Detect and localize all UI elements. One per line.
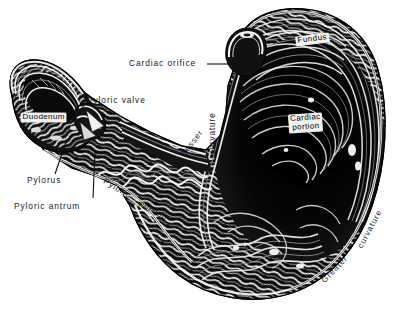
label-cardiac-portion: Cardiac portion — [288, 113, 323, 133]
cardiac-orifice-structure — [226, 28, 267, 76]
label-pyloric-valve: Pyloric valve — [87, 96, 146, 105]
stomach-anatomy-figure: Cardiac orifice Pyloric valve Duodenum P… — [0, 0, 403, 309]
label-pylorus: Pylorus — [27, 176, 61, 185]
label-pyloric-antrum: Pyloric antrum — [14, 202, 80, 211]
label-lesser-curvature-word2: curvature — [208, 112, 217, 154]
label-duodenum: Duodenum — [21, 113, 66, 122]
label-cardiac-orifice: Cardiac orifice — [129, 59, 196, 68]
